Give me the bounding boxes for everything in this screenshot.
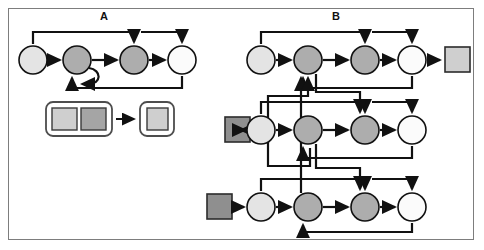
b-r3-edge-skip-3-4 <box>372 179 412 189</box>
b-r1-node-3 <box>351 46 379 74</box>
a-edge-feedback-4-2 <box>72 76 182 88</box>
b-r2-node-1 <box>247 116 275 144</box>
panel-b-group <box>207 32 470 232</box>
b-r2-node-3 <box>351 116 379 144</box>
figure-root: A B <box>0 0 484 250</box>
b-r1-edge-skip-1-3 <box>261 32 365 44</box>
b-r1-node-4 <box>398 46 426 74</box>
b-r2-edge-feedback-4-2 <box>303 146 412 158</box>
b-r2-edge-skip-1-3 <box>261 102 365 114</box>
b-r2-node-2 <box>294 116 322 144</box>
b-r2-node-4 <box>398 116 426 144</box>
b-r3-node-3 <box>351 193 379 221</box>
b-r3-node-1 <box>247 193 275 221</box>
b-r3-edge-skip-1-3 <box>261 179 365 191</box>
b-r1-node-2 <box>294 46 322 74</box>
b-r3-input-square <box>207 194 232 219</box>
b-r2-edge-skip-3-4 <box>372 102 412 112</box>
b-r3-node-4 <box>398 193 426 221</box>
b-cross-edge-r2n2-to-r3n3 <box>316 144 360 189</box>
b-output-square <box>445 47 470 72</box>
b-cross-edge-r1n2-to-r2n3 <box>316 74 360 112</box>
b-r3-node-2 <box>294 193 322 221</box>
a-edge-skip-3-4 <box>141 32 182 42</box>
a-node-1 <box>19 46 47 74</box>
legend-group <box>46 102 174 136</box>
b-r3-edge-feedback-4-2 <box>303 223 412 232</box>
b-r1-node-1 <box>247 46 275 74</box>
b-r1-edge-skip-3-4 <box>372 32 412 42</box>
b-r1-edge-feedback-4-2 <box>303 76 412 88</box>
diagram-canvas <box>0 0 484 250</box>
legend-square-light <box>52 108 77 130</box>
a-node-3 <box>120 46 148 74</box>
a-node-4 <box>168 46 196 74</box>
a-node-2 <box>63 46 91 74</box>
legend-square-output <box>147 108 168 130</box>
panel-a-group <box>19 32 196 88</box>
legend-square-medium <box>81 108 106 130</box>
a-edge-skip-1-3 <box>33 32 134 44</box>
